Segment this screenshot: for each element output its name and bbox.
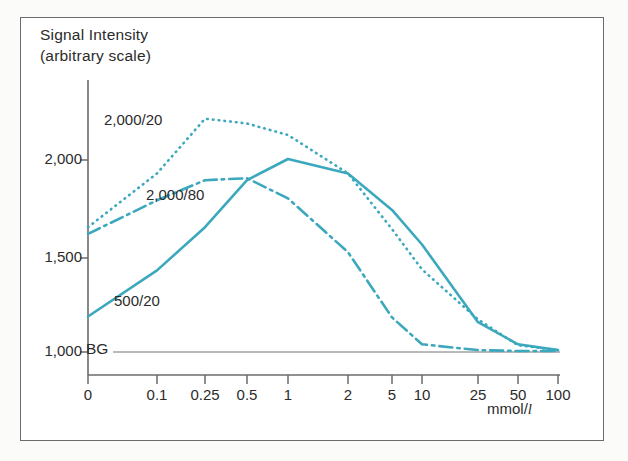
series-label-2000-80: 2,000/80 (146, 186, 204, 203)
series-label-2000-20: 2,000/20 (104, 111, 162, 128)
y-axis-title-line2: (arbitrary scale) (40, 47, 151, 65)
x-tick-label-0: 0 (65, 386, 111, 403)
bg-reference-label: BG (86, 340, 108, 358)
x-tick-marks (88, 375, 558, 384)
y-tick-label-1000: 1,000 (22, 342, 82, 359)
x-tick-label-10: 10 (399, 386, 445, 403)
y-tick-label-2000: 2,000 (22, 150, 82, 167)
series-label-500-20: 500/20 (114, 292, 160, 309)
series-2000-20-dotted (88, 119, 558, 350)
x-tick-label-2: 2 (325, 386, 371, 403)
x-tick-label-100: 100 (535, 386, 581, 403)
figure-canvas: Signal Intensity (arbitrary scale) 2,000… (0, 0, 628, 461)
x-axis-unit-italic: l (528, 401, 532, 417)
series-group (88, 119, 558, 351)
y-tick-label-1500: 1,500 (22, 248, 82, 265)
x-tick-label-0p25: 0.25 (182, 386, 228, 403)
x-axis-unit-label: mmol/l (487, 400, 532, 418)
x-tick-label-0p5: 0.5 (224, 386, 270, 403)
x-tick-label-0p1: 0.1 (134, 386, 180, 403)
x-tick-label-1: 1 (265, 386, 311, 403)
y-axis-title-line1: Signal Intensity (40, 26, 148, 44)
x-axis-unit-text: mmol/ (487, 400, 528, 417)
